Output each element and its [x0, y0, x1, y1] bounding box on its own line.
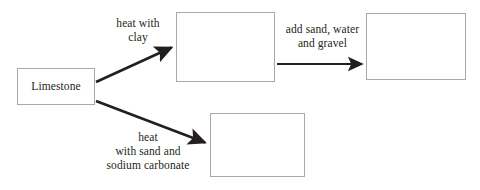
- edge-label-heat-with-sand-and-sodium-carbonate: heat with sand and sodium carbonate: [84, 130, 212, 172]
- node-limestone-label: Limestone: [31, 80, 80, 93]
- arrow-limestone-to-cement: [96, 48, 172, 83]
- node-limestone: Limestone: [17, 68, 95, 105]
- edge-label-add-sand-water-and-gravel: add sand, water and gravel: [271, 22, 374, 50]
- process-flow-diagram: Limestone heat with clay add sand, water…: [0, 0, 480, 190]
- edge-label-heat-with-clay: heat with clay: [96, 16, 180, 44]
- node-cement: [176, 12, 275, 82]
- node-glass: [210, 113, 305, 177]
- node-concrete: [366, 13, 466, 80]
